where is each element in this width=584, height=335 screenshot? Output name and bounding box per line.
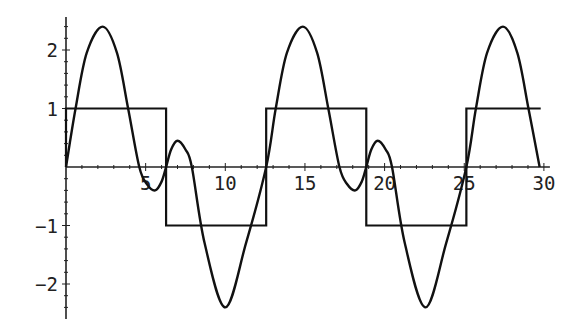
- y-tick-label: 2: [47, 39, 58, 61]
- chart: 51015202530−2−112: [0, 0, 584, 335]
- y-tick-label: 1: [47, 98, 58, 120]
- y-tick-label: −1: [35, 215, 58, 237]
- x-tick-label: 10: [214, 172, 237, 194]
- y-tick-label: −2: [35, 273, 58, 295]
- axes: [62, 17, 550, 319]
- x-tick-label: 30: [532, 172, 555, 194]
- x-tick-label: 15: [294, 172, 317, 194]
